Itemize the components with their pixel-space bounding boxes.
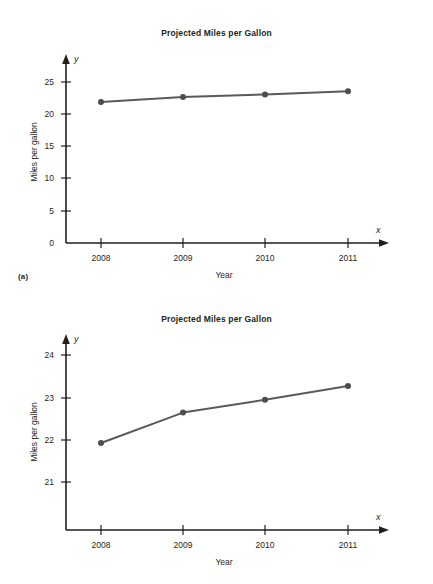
y-axis-title-b: Miles per gallon [29,402,39,462]
y-tick-label-20-a: 20 [45,109,55,119]
y-tick-label-25-a: 25 [45,77,55,87]
x-tick-label-2009-a: 2009 [174,253,193,263]
data-line-b [101,386,348,443]
x-tick-label-2009-b: 2009 [174,540,193,550]
y-tick-label-15-a: 15 [45,141,55,151]
x-axis-title-a: Year [215,270,232,280]
x-tick-label-2010-b: 2010 [256,540,275,550]
x-tick-label-2011-b: 2011 [339,540,358,550]
x-axis-variable-label-b: x [375,512,381,522]
data-point-2011-b [345,383,351,389]
data-point-2010-a [262,91,268,97]
y-tick-label-23-b: 23 [45,393,55,403]
panel-label-a: (a) [18,272,28,281]
x-tick-label-2008-a: 2008 [92,253,111,263]
y-tick-label-22-b: 22 [45,435,55,445]
data-point-2011-a [345,88,351,94]
y-axis-arrowhead-a [62,54,70,64]
data-point-2009-b [180,410,186,416]
y-tick-label-24-b: 24 [45,350,55,360]
chart-plot-a: y x 25 20 15 10 5 0 2008 2009 2010 [0,0,433,292]
y-axis-arrowhead-b [62,334,70,344]
data-point-2008-a [98,99,104,105]
x-tick-label-2011-a: 2011 [339,253,358,263]
x-axis-arrowhead-b [379,526,389,534]
data-point-2009-a [180,94,186,100]
x-axis-variable-label-a: x [375,225,381,235]
y-axis-title-a: Miles per gallon [29,122,39,182]
chart-panel-a: Projected Miles per Gallon y x 25 20 15 … [0,0,433,292]
x-axis-title-b: Year [215,557,232,567]
y-tick-label-5-a: 5 [49,206,54,216]
y-axis-variable-label-b: y [73,334,79,344]
data-point-2008-b [98,440,104,446]
y-tick-label-21-b: 21 [45,477,55,487]
x-axis-arrowhead-a [379,239,389,247]
data-line-a [101,91,348,102]
x-tick-label-2010-a: 2010 [256,253,275,263]
chart-plot-b: y x 24 23 22 21 2008 2009 2010 2011 Ye [0,292,433,584]
data-point-2010-b [262,397,268,403]
chart-panel-b: Projected Miles per Gallon y x 24 23 22 … [0,292,433,584]
x-tick-label-2008-b: 2008 [92,540,111,550]
y-axis-variable-label-a: y [73,54,79,64]
y-tick-label-10-a: 10 [45,173,55,183]
y-tick-label-0-a: 0 [49,238,54,248]
